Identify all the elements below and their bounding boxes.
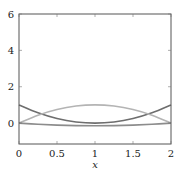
y-tick-label: 4 bbox=[8, 45, 14, 56]
x-tick-label: 1.5 bbox=[125, 148, 141, 159]
x-tick-labels: 00.511.52 bbox=[16, 148, 174, 159]
x-tick-label: 0 bbox=[16, 148, 22, 159]
y-tick-label: 6 bbox=[8, 9, 14, 20]
series-line-curve-light bbox=[19, 105, 171, 123]
x-tick-label: 1 bbox=[92, 148, 98, 159]
y-tick-label: 0 bbox=[8, 118, 14, 129]
y-tick-labels: 0246 bbox=[8, 9, 14, 129]
x-axis-label: x bbox=[92, 159, 98, 170]
chart: 00.511.52 0246 x bbox=[0, 0, 180, 172]
x-tick-label: 2 bbox=[168, 148, 174, 159]
x-tick-label: 0.5 bbox=[49, 148, 65, 159]
y-tick-label: 2 bbox=[8, 81, 14, 92]
plot-curves bbox=[19, 105, 171, 126]
